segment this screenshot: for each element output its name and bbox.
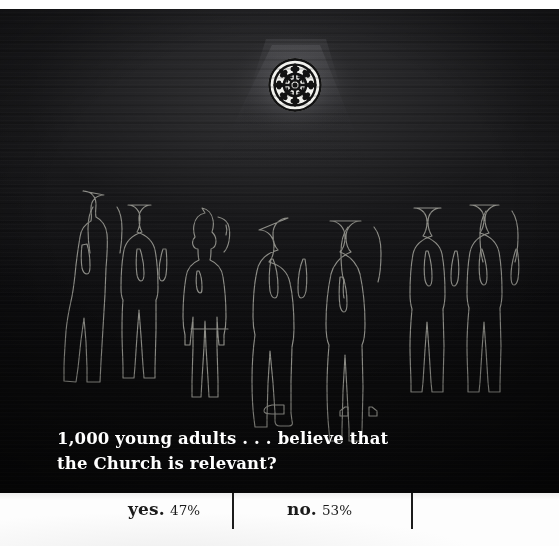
result-yes-label: yes.: [128, 499, 165, 519]
photo-panel: [0, 9, 559, 493]
results-row: yes.47% no.53%: [0, 493, 559, 546]
results-divider-1: [232, 493, 234, 529]
caption-line-1: 1,000 young adults . . . believe that: [57, 426, 527, 451]
result-no: no.53%: [287, 499, 352, 519]
paper-texture: [0, 493, 559, 546]
result-no-value: 53%: [322, 502, 352, 518]
caption-line-2: the Church is relevant?: [57, 451, 527, 476]
top-margin: [0, 0, 559, 9]
caption-block: 1,000 young adults . . . believe that th…: [57, 426, 527, 476]
vignette: [0, 9, 559, 493]
results-divider-2: [411, 493, 413, 529]
result-no-label: no.: [287, 499, 317, 519]
result-yes: yes.47%: [128, 499, 200, 519]
result-yes-value: 47%: [170, 502, 200, 518]
infographic-poster: 1,000 young adults . . . believe that th…: [0, 0, 559, 546]
